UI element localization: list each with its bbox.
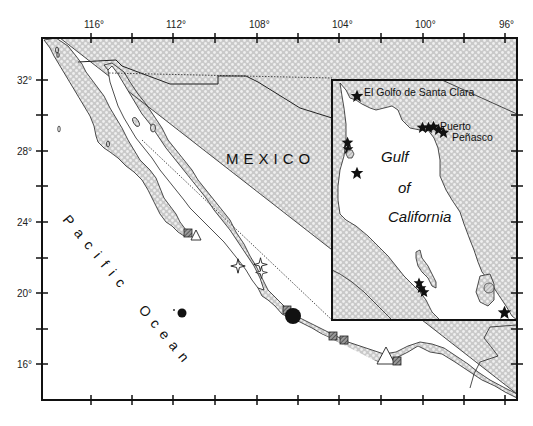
hatched-hexagon-marker xyxy=(484,283,494,293)
x-tick-label: 100° xyxy=(415,19,436,30)
filled-circle-marker xyxy=(285,308,301,324)
inset-map: El Golfo de Santa Clara Puerto Peñasco G… xyxy=(332,80,517,320)
island xyxy=(151,124,156,132)
gulf-label-line2: of xyxy=(398,179,412,196)
x-tick-label: 108° xyxy=(249,19,270,30)
y-tick-label: 24° xyxy=(17,217,32,228)
country-label: MEXICO xyxy=(226,150,315,167)
y-tick-label: 28° xyxy=(17,146,32,157)
y-tick-label: 16° xyxy=(17,359,32,370)
open-triangle-marker xyxy=(191,230,201,240)
y-tick-label: 32° xyxy=(17,75,32,86)
x-tick-label: 116° xyxy=(84,19,104,30)
hatched-square-marker xyxy=(184,229,192,237)
place-label-el-golfo: El Golfo de Santa Clara xyxy=(364,86,474,98)
x-tick-label: 112° xyxy=(166,19,186,30)
hatched-hexagon-marker xyxy=(346,150,354,158)
map-figure: MEXICO Pacific Ocean xyxy=(0,0,533,426)
hatched-square-marker xyxy=(393,357,401,365)
place-label-penasco: Peñasco xyxy=(452,131,493,143)
gulf-label-line1: Gulf xyxy=(381,148,410,165)
gulf-label-line3: California xyxy=(388,208,451,225)
island xyxy=(58,126,60,132)
hatched-square-marker xyxy=(329,332,337,340)
tiny-dot xyxy=(173,309,175,311)
x-tick-label: 104° xyxy=(332,19,353,30)
hatched-square-marker xyxy=(340,336,348,344)
x-tick-label: 96° xyxy=(499,19,514,30)
filled-circle-marker xyxy=(178,309,187,318)
y-tick-label: 20° xyxy=(17,288,32,299)
